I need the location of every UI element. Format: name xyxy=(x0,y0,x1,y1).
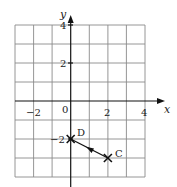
vector-arrowhead-icon xyxy=(86,147,94,153)
point-c-label: C xyxy=(115,148,123,159)
y-axis-arrow-icon xyxy=(68,15,74,23)
x-tick-4: 4 xyxy=(141,107,147,118)
axes xyxy=(15,15,165,187)
y-tick-2: 2 xyxy=(60,58,66,69)
coordinate-grid-diagram: x y −2 0 2 4 4 2 −2 D C xyxy=(0,0,177,187)
x-tick-2: 2 xyxy=(104,107,110,118)
x-tick-neg2: −2 xyxy=(26,107,41,118)
point-d: D xyxy=(67,127,85,143)
y-tick-4: 4 xyxy=(60,20,66,31)
x-axis-label: x xyxy=(164,103,171,116)
point-d-label: D xyxy=(77,127,85,138)
point-c: C xyxy=(104,148,123,162)
x-tick-0: 0 xyxy=(62,104,68,115)
y-tick-neg2: −2 xyxy=(50,134,65,145)
